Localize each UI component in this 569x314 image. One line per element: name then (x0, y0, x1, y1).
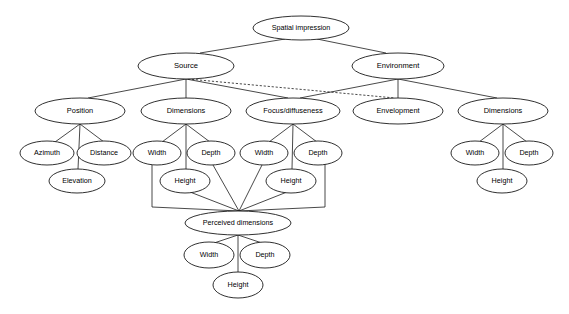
edge-position-to-elevation (78, 124, 80, 169)
edge-position-to-azimuth (55, 124, 80, 142)
diagram-canvas: Spatial impressionSourceEnvironmentPosit… (0, 0, 569, 314)
edge-source-dimensions-to-src-depth (186, 124, 210, 142)
node-label-environment: Environment (377, 61, 421, 70)
node-label-perc-height: Height (228, 280, 249, 289)
node-label-src-height: Height (175, 176, 196, 185)
node-label-source-dimensions: Dimensions (167, 106, 206, 115)
node-perc-width[interactable]: Width (184, 242, 234, 268)
node-foc-height[interactable]: Height (266, 169, 316, 193)
node-environment[interactable]: Environment (352, 53, 444, 79)
node-label-foc-width: Width (255, 148, 273, 157)
edge-src-height-to-perceived-dimensions (190, 192, 239, 211)
edge-environment-to-env-dimensions (398, 79, 497, 98)
edge-spatial-impression-to-source (200, 39, 285, 53)
node-spatial-impression[interactable]: Spatial impression (253, 16, 349, 40)
nodes-layer: Spatial impressionSourceEnvironmentPosit… (20, 16, 553, 298)
edge-focus-diffuseness-to-foc-height (292, 124, 293, 169)
node-focus-diffuseness[interactable]: Focus/diffuseness (246, 98, 340, 124)
node-label-src-depth: Depth (201, 148, 220, 157)
node-label-foc-depth: Depth (308, 148, 327, 157)
edge-source-dimensions-to-src-width (162, 124, 186, 142)
node-label-src-width: Width (148, 148, 166, 157)
node-azimuth[interactable]: Azimuth (20, 141, 74, 165)
node-elevation[interactable]: Elevation (49, 169, 105, 193)
node-position[interactable]: Position (35, 98, 125, 124)
edge-focus-diffuseness-to-foc-width (269, 124, 293, 142)
node-foc-width[interactable]: Width (240, 141, 288, 165)
edge-position-to-distance (80, 124, 104, 142)
spatial-impression-tree-diagram: Spatial impressionSourceEnvironmentPosit… (0, 0, 569, 314)
edge-env-dimensions-to-env-width (479, 124, 503, 142)
node-foc-depth[interactable]: Depth (294, 141, 342, 165)
edge-src-depth-to-perceived-dimensions (213, 165, 239, 211)
node-distance[interactable]: Distance (77, 141, 131, 165)
edge-foc-width-to-perceived-dimensions (239, 165, 262, 211)
node-perc-height[interactable]: Height (213, 272, 263, 298)
edge-focus-diffuseness-to-foc-depth (293, 124, 317, 142)
node-label-source: Source (174, 61, 198, 70)
node-label-distance: Distance (90, 148, 118, 157)
node-label-env-dimensions: Dimensions (484, 106, 523, 115)
edge-env-dimensions-to-env-depth (503, 124, 527, 142)
edge-perceived-dimensions-to-perc-depth (238, 235, 262, 243)
node-label-spatial-impression: Spatial impression (272, 23, 331, 32)
edge-source-to-position (88, 79, 186, 98)
node-label-env-depth: Depth (519, 148, 538, 157)
node-perceived-dimensions[interactable]: Perceived dimensions (185, 211, 291, 235)
node-label-envelopment: Envelopment (376, 106, 419, 115)
node-label-focus-diffuseness: Focus/diffuseness (263, 106, 323, 115)
node-label-env-height: Height (492, 176, 513, 185)
node-src-height[interactable]: Height (160, 169, 210, 193)
node-label-perc-depth: Depth (255, 250, 274, 259)
node-source[interactable]: Source (138, 53, 234, 79)
node-label-perc-width: Width (200, 250, 218, 259)
node-perc-depth[interactable]: Depth (240, 242, 290, 268)
edge-perceived-dimensions-to-perc-width (214, 235, 238, 243)
edge-foc-height-to-perceived-dimensions (239, 192, 287, 211)
node-env-depth[interactable]: Depth (505, 141, 553, 165)
node-label-elevation: Elevation (62, 176, 92, 185)
edge-source-to-envelopment (188, 79, 395, 98)
node-label-azimuth: Azimuth (34, 148, 60, 157)
node-src-depth[interactable]: Depth (187, 141, 235, 165)
node-label-foc-height: Height (281, 176, 302, 185)
node-envelopment[interactable]: Envelopment (353, 98, 443, 124)
node-label-perceived-dimensions: Perceived dimensions (203, 218, 274, 227)
edge-spatial-impression-to-environment (317, 39, 386, 53)
node-source-dimensions[interactable]: Dimensions (141, 98, 231, 124)
edge-source-to-focus-diffuseness (186, 79, 288, 98)
node-label-position: Position (67, 106, 93, 115)
node-src-width[interactable]: Width (133, 141, 181, 165)
edge-environment-to-focus-diffuseness (300, 79, 398, 98)
node-env-width[interactable]: Width (451, 141, 499, 165)
node-env-dimensions[interactable]: Dimensions (458, 98, 548, 124)
node-env-height[interactable]: Height (477, 169, 527, 193)
node-label-env-width: Width (466, 148, 484, 157)
